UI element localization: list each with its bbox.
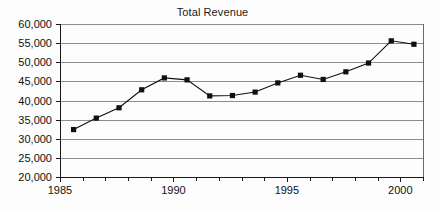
gridlines-group [60, 25, 423, 178]
data-point-marker [139, 87, 144, 92]
plot-frame [60, 24, 424, 178]
y-axis-tick-labels: 20,00025,00030,00035,00040,00045,00050,0… [18, 18, 60, 183]
y-tick-label-55000: 55,000 [18, 37, 52, 49]
data-point-marker [116, 105, 121, 110]
data-point-marker [230, 93, 235, 98]
x-tick-label-1985: 1985 [48, 184, 72, 196]
x-tick-label-1995: 1995 [275, 184, 299, 196]
series-line-total-revenue [74, 41, 414, 130]
chart-plot-svg: 20,00025,00030,00035,00040,00045,00050,0… [0, 0, 439, 212]
x-axis-tick-labels: 1985199019952000 [48, 184, 413, 196]
x-tick-label-2000: 2000 [388, 184, 412, 196]
data-point-marker [162, 75, 167, 80]
x-tick-label-1990: 1990 [161, 184, 185, 196]
y-tick-label-20000: 20,000 [18, 171, 52, 183]
y-tick-label-25000: 25,000 [18, 152, 52, 164]
data-point-marker [343, 69, 348, 74]
y-tick-label-30000: 30,000 [18, 133, 52, 145]
data-point-marker [321, 77, 326, 82]
y-tick-label-45000: 45,000 [18, 75, 52, 87]
data-point-marker [184, 77, 189, 82]
data-point-marker [207, 93, 212, 98]
data-series-total-revenue [71, 38, 417, 132]
data-point-marker [411, 42, 416, 47]
y-tick-label-40000: 40,000 [18, 95, 52, 107]
data-point-marker [366, 60, 371, 65]
data-point-marker [94, 116, 99, 121]
data-point-marker [298, 73, 303, 78]
data-point-marker [275, 80, 280, 85]
chart-container: Total Revenue 20,00025,00030,00035,00040… [0, 0, 439, 212]
data-point-marker [253, 89, 258, 94]
data-point-marker [389, 38, 394, 43]
data-point-marker [71, 127, 76, 132]
y-tick-label-50000: 50,000 [18, 56, 52, 68]
y-tick-label-60000: 60,000 [18, 18, 52, 30]
y-tick-label-35000: 35,000 [18, 114, 52, 126]
